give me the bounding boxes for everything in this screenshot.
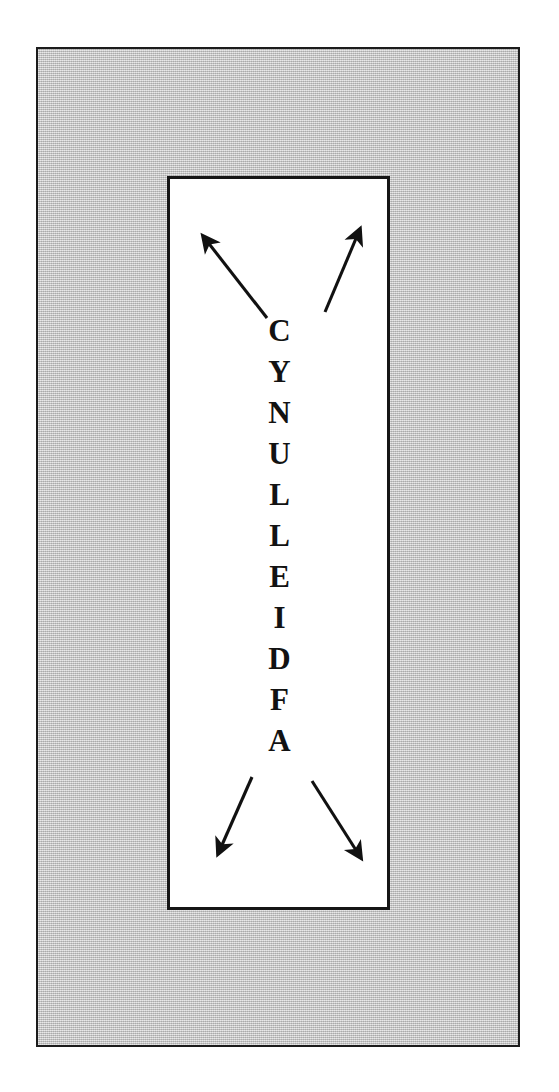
arrow-bottom-left-group — [218, 777, 252, 854]
page-canvas: C Y N U L L E I D F A CYNULLEIDFA — [0, 0, 559, 1092]
arrow-top-right-group — [325, 229, 360, 312]
outer-gray-panel: C Y N U L L E I D F A — [36, 47, 520, 1047]
arrow-top-right — [325, 229, 360, 312]
arrow-bottom-right — [312, 781, 361, 858]
inner-white-diagram-box: C Y N U L L E I D F A — [167, 176, 390, 910]
arrow-top-left — [203, 236, 267, 318]
arrow-bottom-right-group — [312, 781, 361, 858]
diagram-word-readout: CYNULLEIDFA — [0, 0, 1, 1]
arrow-layer — [170, 179, 393, 913]
arrow-bottom-left — [218, 777, 252, 854]
arrow-top-left-group — [203, 236, 267, 318]
